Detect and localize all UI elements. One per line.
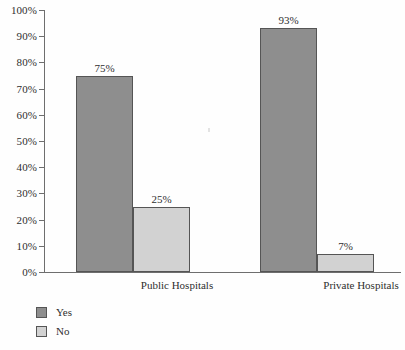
y-axis-tick-mark (39, 10, 44, 11)
y-axis-tick-mark (39, 141, 44, 142)
x-axis-category-label: Public Hospitals (141, 280, 213, 291)
y-axis-tick-mark (39, 89, 44, 90)
bar-public-yes[interactable]: 75% (76, 76, 133, 273)
x-axis-category-label: Private Hospitals (323, 280, 398, 291)
y-axis-tick-mark (39, 115, 44, 116)
y-axis-tick-mark (39, 246, 44, 247)
y-axis-tick-mark (39, 36, 44, 37)
y-axis-tick-label: 60% (17, 109, 37, 120)
bar-public-no[interactable]: 25% (133, 207, 190, 273)
y-axis-tick-label: 100% (11, 5, 37, 16)
y-axis-tick-label: 30% (17, 188, 37, 199)
bar-value-label: 93% (278, 15, 298, 26)
bar-value-label: 75% (94, 63, 114, 74)
y-axis-tick-mark (39, 272, 44, 273)
bar-chart: 100%90%80%70%60%50%40%30%20%10%0% 75%25%… (0, 0, 405, 350)
plot-area: 100%90%80%70%60%50%40%30%20%10%0% 75%25%… (44, 10, 399, 272)
legend-label-yes: Yes (56, 307, 72, 318)
y-axis-tick-mark (39, 167, 44, 168)
bar-value-label: 25% (151, 194, 171, 205)
x-axis-line (44, 272, 401, 273)
y-axis-tick-mark (39, 220, 44, 221)
bar-private-yes[interactable]: 93% (260, 28, 317, 272)
y-axis-tick-label: 70% (17, 83, 37, 94)
y-axis-tick-mark (39, 62, 44, 63)
y-axis-tick-mark (39, 193, 44, 194)
y-axis-tick-label: 40% (17, 162, 37, 173)
y-axis-tick-label: 20% (17, 214, 37, 225)
bar-value-label: 7% (338, 241, 353, 252)
y-axis-tick-label: 90% (17, 31, 37, 42)
y-axis-tick-label: 50% (17, 136, 37, 147)
legend-label-no: No (56, 326, 69, 337)
legend-item-no[interactable]: No (36, 322, 72, 341)
legend-item-yes[interactable]: Yes (36, 303, 72, 322)
y-axis-tick-label: 0% (22, 267, 37, 278)
bar-private-no[interactable]: 7% (317, 254, 374, 272)
y-axis-tick-label: 80% (17, 57, 37, 68)
y-axis-tick-label: 10% (17, 240, 37, 251)
legend-swatch-no-icon (36, 326, 47, 337)
legend-swatch-yes-icon (36, 307, 47, 318)
chart-legend: Yes No (36, 303, 72, 341)
